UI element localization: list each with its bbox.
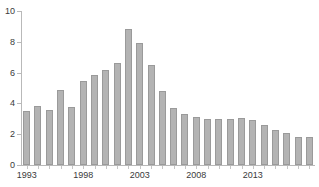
bar-series (21, 11, 315, 165)
x-tick-mark (298, 166, 299, 169)
x-tick-mark (185, 166, 186, 169)
x-tick-mark (230, 166, 231, 169)
bar (136, 43, 143, 165)
x-tick-label: 2013 (236, 170, 270, 180)
bar (181, 114, 188, 165)
x-tick-label: 1993 (10, 170, 44, 180)
bar (102, 70, 109, 165)
x-tick-mark (128, 166, 129, 169)
bar (114, 63, 121, 165)
x-tick-label: 2008 (179, 170, 213, 180)
y-tick-label: 8 (0, 38, 15, 47)
bar (295, 137, 302, 165)
x-tick-mark (95, 166, 96, 169)
bar (80, 81, 87, 165)
x-tick-mark (287, 166, 288, 169)
bar (34, 106, 41, 165)
bar (148, 65, 155, 165)
x-tick-label: 1998 (66, 170, 100, 180)
y-tick-label: 2 (0, 130, 15, 139)
x-tick-mark (83, 166, 84, 169)
y-tick-label: 10 (0, 7, 15, 16)
bar (68, 107, 75, 165)
x-tick-mark (117, 166, 118, 169)
x-axis-line (21, 165, 315, 166)
bar (238, 118, 245, 165)
bar-chart: 0246810 19931998200320082013 (0, 0, 319, 187)
x-tick-mark (27, 166, 28, 169)
x-tick-mark (38, 166, 39, 169)
x-tick-mark (72, 166, 73, 169)
x-tick-label: 2003 (123, 170, 157, 180)
x-tick-mark (242, 166, 243, 169)
x-tick-mark (106, 166, 107, 169)
bar (23, 111, 30, 165)
bar (91, 75, 98, 165)
bar (261, 125, 268, 165)
x-tick-mark (162, 166, 163, 169)
x-tick-mark (275, 166, 276, 169)
bar (170, 108, 177, 165)
x-tick-mark (309, 166, 310, 169)
x-tick-mark (196, 166, 197, 169)
x-tick-mark (264, 166, 265, 169)
bar (159, 91, 166, 165)
bar (125, 29, 132, 165)
bar (46, 110, 53, 165)
x-tick-mark (140, 166, 141, 169)
y-tick-label: 6 (0, 69, 15, 78)
bar (306, 137, 313, 165)
bar (193, 117, 200, 165)
bar (249, 120, 256, 165)
x-tick-mark (61, 166, 62, 169)
bar (57, 90, 64, 165)
x-tick-mark (208, 166, 209, 169)
x-tick-mark (151, 166, 152, 169)
bar (204, 119, 211, 165)
bar (227, 119, 234, 165)
x-tick-mark (253, 166, 254, 169)
y-tick-label: 4 (0, 99, 15, 108)
bar (283, 133, 290, 165)
bar (272, 130, 279, 165)
x-tick-mark (219, 166, 220, 169)
y-tick-mark (17, 165, 21, 166)
y-tick-label: 0 (0, 161, 15, 170)
x-tick-mark (174, 166, 175, 169)
x-tick-mark (49, 166, 50, 169)
bar (215, 119, 222, 165)
